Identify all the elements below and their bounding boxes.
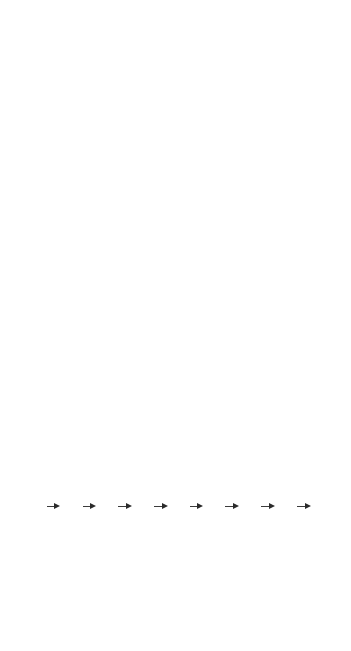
flow-connector-head-5-6 <box>197 503 203 509</box>
flow-connector-head-3-4 <box>126 503 132 509</box>
flow-connector-head-6-7 <box>233 503 239 509</box>
flowchart-diagram: Formulierung der Umweltziele und Selbstv… <box>0 0 351 651</box>
flow-connector-head-8-9 <box>305 503 311 509</box>
flow-connector-head-2-3 <box>90 503 96 509</box>
flow-connector-head-4-5 <box>162 503 168 509</box>
flow-connector-head-7-8 <box>269 503 275 509</box>
flow-connector-head-1-2 <box>54 503 60 509</box>
